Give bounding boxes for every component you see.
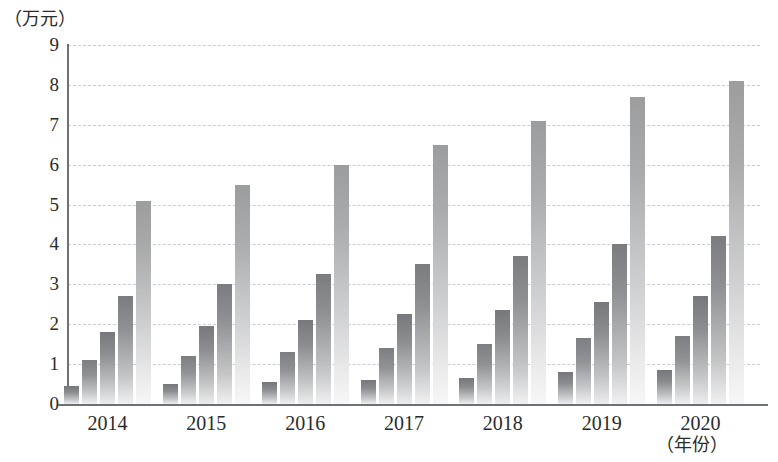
y-axis-tick-label: 2 xyxy=(10,314,68,333)
x-axis-tick-label: 2020 xyxy=(637,410,764,436)
y-axis-tick-label: 7 xyxy=(10,115,68,134)
bar xyxy=(558,372,573,404)
x-axis-unit-label: （年份） xyxy=(656,434,728,456)
bar xyxy=(82,360,97,404)
bar xyxy=(729,81,744,404)
bar-group xyxy=(64,45,151,404)
x-axis-line xyxy=(58,404,768,406)
bars-layer xyxy=(68,45,760,404)
bar xyxy=(64,386,79,404)
bar xyxy=(693,296,708,404)
y-axis-tick-label: 1 xyxy=(10,354,68,373)
bar xyxy=(334,165,349,404)
bar xyxy=(361,380,376,404)
bar xyxy=(576,338,591,404)
bar xyxy=(531,121,546,404)
bar-group xyxy=(657,45,744,404)
bar xyxy=(316,274,331,404)
bar xyxy=(298,320,313,404)
bar xyxy=(262,382,277,404)
bar xyxy=(100,332,115,404)
bar xyxy=(675,336,690,404)
bar xyxy=(379,348,394,404)
bar xyxy=(163,384,178,404)
bar xyxy=(136,201,151,404)
bar xyxy=(199,326,214,404)
bar xyxy=(433,145,448,404)
bar xyxy=(217,284,232,404)
y-axis-tick-label: 9 xyxy=(10,35,68,54)
bar xyxy=(594,302,609,404)
bar-group xyxy=(558,45,645,404)
bar-group xyxy=(262,45,349,404)
bar xyxy=(657,370,672,404)
y-axis-tick-label: 3 xyxy=(10,274,68,293)
y-axis-tick-label: 5 xyxy=(10,195,68,214)
y-axis-tick-label: 8 xyxy=(10,75,68,94)
bar xyxy=(415,264,430,404)
bar-group xyxy=(459,45,546,404)
bar-chart: （万元） 0123456789 201420152016201720182019… xyxy=(0,0,778,462)
bar xyxy=(235,185,250,404)
bar xyxy=(397,314,412,404)
bar xyxy=(118,296,133,404)
y-axis-tick-label: 6 xyxy=(10,155,68,174)
bar xyxy=(459,378,474,404)
y-axis-tick-label: 4 xyxy=(10,234,68,253)
bar xyxy=(181,356,196,404)
bar-group xyxy=(163,45,250,404)
bar-group xyxy=(361,45,448,404)
bar xyxy=(630,97,645,404)
y-axis-tick-labels: 0123456789 xyxy=(0,45,68,404)
bar xyxy=(513,256,528,404)
bar xyxy=(477,344,492,404)
bar xyxy=(711,236,726,404)
bar xyxy=(612,244,627,404)
bar xyxy=(280,352,295,404)
bar xyxy=(495,310,510,404)
y-axis-unit-label: （万元） xyxy=(4,4,76,30)
